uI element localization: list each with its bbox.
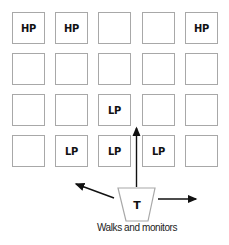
arrow-left <box>76 184 114 198</box>
teacher-label: T <box>133 199 141 212</box>
movement-arrows: T <box>0 0 229 245</box>
teacher-caption: Walks and monitors <box>87 222 187 233</box>
